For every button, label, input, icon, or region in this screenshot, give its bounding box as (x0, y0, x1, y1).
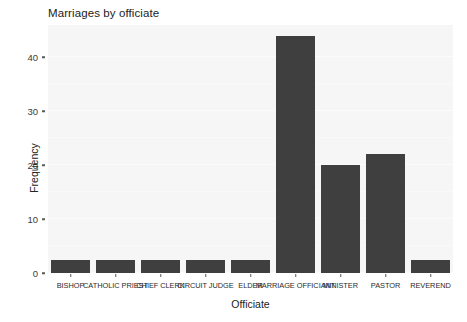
x-axis-tick-mark (430, 274, 432, 277)
y-axis-tick-mark (42, 164, 45, 166)
x-axis-tick: PASTOR (371, 281, 400, 290)
bar (51, 260, 90, 273)
x-axis-tick-mark (115, 274, 117, 277)
y-axis-tick-labels: 010203040 (0, 25, 38, 273)
x-axis-tick-mark (205, 274, 207, 277)
x-axis-tick: REVEREND (410, 281, 451, 290)
bar (321, 165, 360, 273)
y-axis-tick: 0 (8, 268, 38, 279)
x-axis-tick-mark (250, 274, 252, 277)
bar (411, 260, 450, 273)
x-axis-tick: MINISTER (323, 281, 358, 290)
bar (231, 260, 270, 273)
plot-panel (48, 25, 453, 273)
y-axis-tick: 20 (8, 160, 38, 171)
bar (366, 154, 405, 273)
y-axis-tick-mark (42, 272, 45, 274)
bar (141, 260, 180, 273)
gridline-minor (48, 137, 453, 138)
gridline-major (48, 56, 453, 57)
x-axis-tick-mark (385, 274, 387, 277)
y-axis-tick: 30 (8, 106, 38, 117)
bar (276, 36, 315, 273)
x-axis-label: Officiate (48, 298, 453, 310)
x-axis-tick: BISHOP (57, 281, 85, 290)
gridline-minor (48, 83, 453, 84)
y-axis-tick-mark (42, 218, 45, 220)
chart-title: Marriages by officiate (48, 7, 159, 19)
x-axis-tick-mark (160, 274, 162, 277)
bar (96, 260, 135, 273)
bar (186, 260, 225, 273)
y-axis-tick-mark (42, 57, 45, 59)
x-axis-tick: CIRCUIT JUDGE (177, 281, 233, 290)
y-axis-tick: 40 (8, 52, 38, 63)
x-axis-tick-mark (295, 274, 297, 277)
x-axis-tick-mark (70, 274, 72, 277)
y-axis-tick: 10 (8, 214, 38, 225)
x-axis-tick-mark (340, 274, 342, 277)
y-axis-tick-mark (42, 111, 45, 113)
chart-figure: Marriages by officiate Frequency 0102030… (0, 0, 467, 322)
gridline-major (48, 110, 453, 111)
